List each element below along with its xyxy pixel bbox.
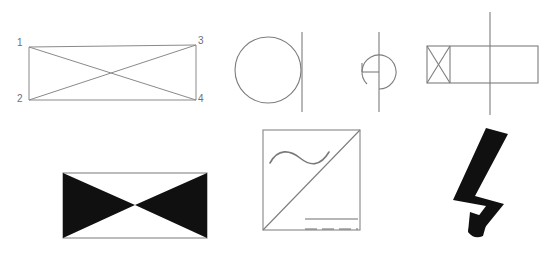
lightning-bolt	[0, 0, 558, 266]
symbol-plate: 1 2 3 4	[0, 0, 558, 266]
